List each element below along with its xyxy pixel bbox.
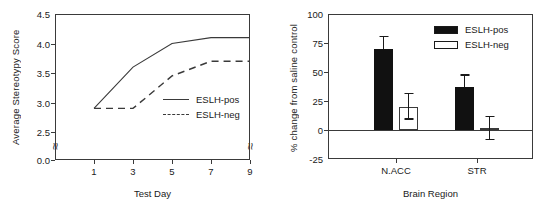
- bar-chart-zero-line: [328, 130, 533, 131]
- line-chart-panel: Average Stereotypy Score 4.5 4.0 3.5 3.0…: [0, 0, 280, 219]
- line-chart-x-axis-title: Test Day: [55, 188, 250, 199]
- line-chart-axis-stub: 0.0 1 3 5 7 9: [55, 132, 250, 160]
- figure-two-panel: Average Stereotypy Score 4.5 4.0 3.5 3.0…: [0, 0, 553, 219]
- errorbar-cap-upper-str-eslh-neg: [485, 116, 494, 117]
- bar-chart-ytick-100: 100: [307, 9, 328, 20]
- errorbar-cap-lower-str-eslh-neg: [485, 139, 494, 140]
- errorbar-cap-str-eslh-pos: [460, 74, 469, 75]
- legend-item-eslh-neg: ESLH-neg: [163, 107, 240, 122]
- legend-label-eslh-pos: ESLH-pos: [196, 94, 239, 105]
- line-chart-xtick-3: 3: [130, 160, 135, 177]
- bar-chart-plot-area: 100 75 50 25 0 -25: [328, 14, 533, 159]
- line-chart-axis-stub-left: [55, 132, 56, 160]
- errorbar-cap-upper-nacc-eslh-neg: [404, 93, 413, 94]
- line-chart-plot-area: 4.5 4.0 3.5 3.0 2.5 ESLH-pos: [55, 14, 250, 132]
- line-chart-axis-stub-right: [249, 132, 250, 160]
- legend-label-eslh-neg: ESLH-neg: [465, 39, 509, 50]
- bar-chart-ytickmark: [324, 43, 328, 44]
- bar-chart-y-axis-title: % change from saline control: [286, 14, 300, 162]
- bar-chart-panel: % change from saline control 100 75 50 2…: [280, 0, 553, 219]
- bar-chart-ytick-neg25: -25: [309, 154, 328, 165]
- errorbar-nacc-eslh-neg: [408, 94, 409, 120]
- line-chart-x-axis: [55, 159, 250, 160]
- errorbar-str-eslh-pos: [464, 76, 465, 88]
- line-chart-ytick-4-5: 4.5: [37, 9, 55, 20]
- legend-label-eslh-neg: ESLH-neg: [196, 109, 240, 120]
- errorbar-cap-nacc-eslh-pos: [379, 36, 388, 37]
- errorbar-nacc-eslh-pos: [383, 37, 384, 49]
- bar-chart-ytickmark: [324, 101, 328, 102]
- legend-item-eslh-neg: ESLH-neg: [434, 37, 509, 52]
- legend-swatch-solid-line-icon: [163, 99, 189, 100]
- line-chart-xtick-9: 9: [247, 160, 252, 177]
- legend-label-eslh-pos: ESLH-pos: [465, 24, 508, 35]
- bar-str-eslh-pos: [455, 87, 474, 130]
- legend-item-eslh-pos: ESLH-pos: [163, 92, 240, 107]
- bar-nacc-eslh-pos: [374, 49, 393, 130]
- line-chart-legend: ESLH-pos ESLH-neg: [163, 92, 240, 122]
- line-chart-xtick-5: 5: [169, 160, 174, 177]
- legend-swatch-dashed-line-icon: [163, 114, 189, 115]
- legend-swatch-filled-bar-icon: [434, 26, 458, 34]
- bar-chart-legend: ESLH-pos ESLH-neg: [434, 22, 509, 52]
- legend-swatch-open-bar-icon: [434, 41, 458, 49]
- bar-chart-xtick-nacc: N.ACC: [381, 159, 411, 176]
- errorbar-cap-lower-nacc-eslh-neg: [404, 118, 413, 119]
- bar-chart-x-axis-title: Brain Region: [328, 188, 533, 199]
- legend-item-eslh-pos: ESLH-pos: [434, 22, 509, 37]
- errorbar-str-eslh-neg: [489, 117, 490, 140]
- line-chart-y-axis-title: Average Stereotypy Score: [8, 12, 22, 162]
- bar-chart-xtick-str: STR: [468, 159, 487, 176]
- line-chart-ytickmark: [51, 160, 55, 161]
- line-chart-xtick-7: 7: [208, 160, 213, 177]
- line-chart-xtick-1: 1: [91, 160, 96, 177]
- bar-chart-ytickmark: [324, 72, 328, 73]
